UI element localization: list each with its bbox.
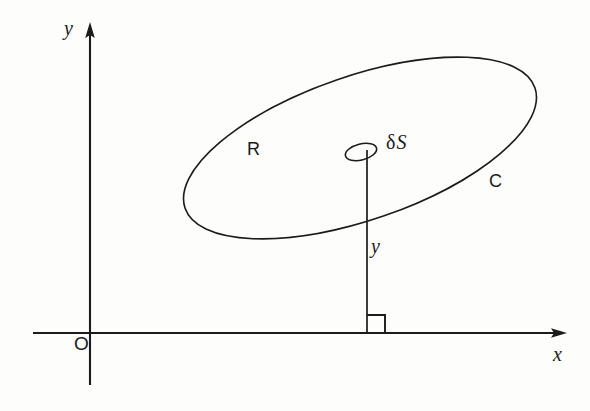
curve-label-c: C bbox=[489, 172, 502, 190]
x-axis-label: x bbox=[553, 344, 562, 364]
right-angle-marker bbox=[367, 315, 385, 333]
origin-label: O bbox=[74, 334, 89, 353]
height-label-y: y bbox=[371, 236, 380, 256]
s-symbol: S bbox=[395, 131, 406, 153]
figure-canvas: y x O R C y δS bbox=[0, 0, 590, 411]
surface-element-ellipse bbox=[344, 140, 379, 163]
surface-element-label-delta-s: δS bbox=[386, 132, 406, 152]
boundary-curve-c bbox=[162, 20, 559, 277]
y-axis-label: y bbox=[64, 18, 73, 38]
region-label-r: R bbox=[247, 140, 260, 158]
